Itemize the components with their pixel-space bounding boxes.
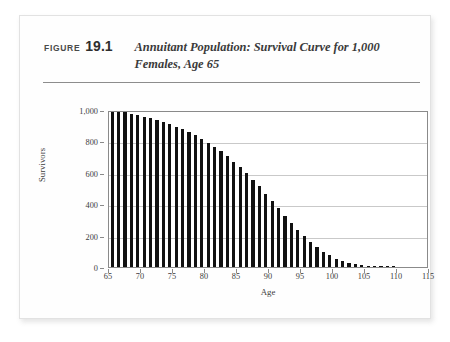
bar: [341, 261, 344, 267]
x-tick-label: 105: [358, 272, 370, 281]
x-tick-mark: [332, 269, 333, 273]
bar: [149, 118, 152, 267]
bar: [373, 266, 376, 267]
bar: [136, 115, 139, 267]
title-divider: [43, 82, 420, 83]
y-tick-label: 600: [86, 169, 98, 178]
y-axis: 02004006008001,000: [38, 111, 104, 268]
bar: [181, 129, 184, 267]
bar: [219, 151, 222, 267]
figure-label: FIGURE: [44, 41, 80, 53]
bar: [200, 139, 203, 267]
bar: [303, 236, 306, 267]
bar: [347, 263, 350, 267]
bar: [271, 201, 274, 267]
bar: [130, 114, 133, 267]
y-tick-mark: [100, 142, 104, 143]
x-tick-label: 90: [264, 272, 272, 281]
bar: [213, 147, 216, 267]
x-tick-label: 95: [296, 272, 304, 281]
x-tick-mark: [428, 269, 429, 273]
y-axis-title: Survivors: [37, 148, 47, 182]
bar: [290, 223, 293, 267]
x-tick-mark: [172, 269, 173, 273]
bar: [379, 266, 382, 267]
figure-header: FIGURE 19.1 Annuitant Population: Surviv…: [44, 38, 410, 72]
x-tick-label: 100: [326, 272, 338, 281]
y-tick-mark: [100, 205, 104, 206]
x-axis-title: Age: [108, 287, 428, 297]
bar: [168, 124, 171, 267]
x-tick-label: 80: [200, 272, 208, 281]
bar: [251, 180, 254, 267]
figure-title: Annuitant Population: Survival Curve for…: [135, 39, 410, 72]
bar: [226, 156, 229, 267]
bar: [283, 216, 286, 267]
y-tick-mark: [100, 111, 104, 112]
y-tick-label: 0: [94, 264, 98, 273]
y-tick-label: 400: [86, 201, 98, 210]
bar: [194, 135, 197, 267]
x-tick-mark: [236, 269, 237, 273]
x-tick-label: 75: [168, 272, 176, 281]
y-tick-label: 1,000: [79, 107, 98, 116]
bar: [386, 266, 389, 267]
bar: [232, 162, 235, 268]
bar: [367, 266, 370, 267]
bar: [258, 186, 261, 267]
bar: [328, 255, 331, 267]
bar: [239, 167, 242, 267]
bar: [315, 247, 318, 267]
bar: [111, 111, 114, 267]
chart: 02004006008001,000 Survivors 65707580859…: [38, 96, 414, 306]
bar: [175, 127, 178, 267]
bar: [354, 264, 357, 267]
bar: [309, 242, 312, 267]
y-tick-mark: [100, 268, 104, 269]
bar: [277, 208, 280, 267]
x-axis: 65707580859095100105110115: [108, 270, 428, 284]
y-tick-mark: [100, 237, 104, 238]
bar: [322, 252, 325, 267]
bar: [360, 265, 363, 267]
screenshot-page: FIGURE 19.1 Annuitant Population: Surviv…: [0, 0, 450, 342]
x-tick-label: 85: [232, 272, 240, 281]
bar: [117, 111, 120, 267]
bar: [296, 230, 299, 267]
bar-series: [109, 112, 427, 267]
y-tick-mark: [100, 174, 104, 175]
bar: [392, 266, 395, 267]
bar: [335, 259, 338, 267]
x-tick-mark: [364, 269, 365, 273]
x-tick-mark: [396, 269, 397, 273]
bar: [245, 173, 248, 267]
y-tick-label: 800: [86, 138, 98, 147]
figure-card: FIGURE 19.1 Annuitant Population: Surviv…: [19, 15, 431, 319]
x-tick-mark: [140, 269, 141, 273]
figure-number: 19.1: [85, 38, 112, 54]
x-tick-mark: [108, 269, 109, 273]
x-tick-label: 115: [422, 272, 434, 281]
x-tick-label: 110: [390, 272, 402, 281]
bar: [264, 194, 267, 267]
bar: [155, 120, 158, 267]
x-tick-mark: [268, 269, 269, 273]
x-tick-label: 70: [136, 272, 144, 281]
x-tick-mark: [300, 269, 301, 273]
figure-caption-row: FIGURE 19.1 Annuitant Population: Surviv…: [44, 38, 410, 72]
x-tick-mark: [204, 269, 205, 273]
bar: [143, 117, 146, 267]
plot-area: [108, 111, 428, 268]
bar: [123, 112, 126, 267]
x-tick-label: 65: [104, 272, 112, 281]
bar: [187, 132, 190, 267]
y-tick-label: 200: [86, 232, 98, 241]
bar: [162, 122, 165, 267]
bar: [207, 143, 210, 267]
